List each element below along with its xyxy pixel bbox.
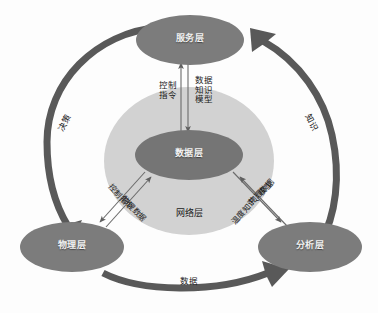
node-physical-shape[interactable]: [20, 222, 124, 272]
diagram-canvas: 服务层 数据层 物理层 分析层 网络层 决策 数据 知识 控制 指令 数据 知识…: [0, 0, 378, 313]
node-service-shape[interactable]: [136, 15, 244, 65]
node-analysis-shape[interactable]: [258, 222, 362, 272]
arc-bottom-data: [103, 261, 289, 288]
node-data-shape[interactable]: [135, 130, 243, 180]
architecture-diagram-svg: [0, 0, 378, 313]
